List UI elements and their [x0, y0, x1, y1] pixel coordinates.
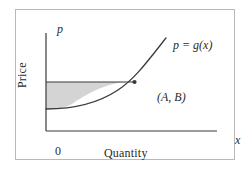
point-coordinate-label: (A, B): [157, 90, 186, 105]
x-axis-tip-label: x: [235, 133, 240, 148]
plot-canvas: [16, 10, 234, 159]
y-axis-title: Price: [15, 62, 30, 88]
figure-root: p x 0 Quantity Price p = g(x) (A, B): [0, 0, 250, 171]
y-axis-tip-label: p: [57, 22, 63, 37]
point-marker-ab: [132, 80, 136, 84]
figure-frame-border: p x 0 Quantity Price p = g(x) (A, B): [15, 9, 235, 160]
origin-label: 0: [55, 144, 61, 159]
shaded-region: [46, 82, 134, 109]
x-axis-title: Quantity: [104, 146, 148, 161]
curve-equation-label: p = g(x): [173, 38, 212, 53]
